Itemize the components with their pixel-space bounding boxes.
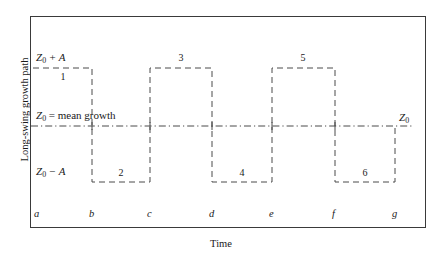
chart-plot-area xyxy=(0,0,442,261)
cycle-number-1: 1 xyxy=(56,72,70,82)
x-tick-label-c: c xyxy=(147,209,152,220)
x-tick-label-e: e xyxy=(269,209,274,220)
level-label-mean: Z0 = mean growth xyxy=(36,110,116,123)
level-label-upper: Z0 + A xyxy=(36,52,66,65)
cycle-number-3: 3 xyxy=(174,53,188,63)
long-swing-growth-path-curve xyxy=(33,68,395,182)
x-tick-label-g: g xyxy=(392,209,397,220)
x-tick-label-b: b xyxy=(89,209,94,220)
x-tick-label-d: d xyxy=(209,209,214,220)
cycle-number-2: 2 xyxy=(114,168,128,178)
cycle-number-5: 5 xyxy=(296,53,310,63)
level-label-upper-rest: + A xyxy=(46,51,65,63)
level-label-lower-rest: − A xyxy=(46,165,65,177)
x-tick-label-a: a xyxy=(34,209,39,220)
x-tick-label-f: f xyxy=(332,209,335,220)
figure-container: Long-swing growth path Z0 + A Z0 = mean … xyxy=(0,0,442,261)
level-label-right-z0: Z0 xyxy=(399,112,409,125)
cycle-number-6: 6 xyxy=(358,168,372,178)
mean-line-crossings xyxy=(92,122,335,130)
x-axis-title: Time xyxy=(0,239,442,250)
level-label-lower: Z0 − A xyxy=(36,166,66,179)
level-label-right-subscript: 0 xyxy=(405,116,409,125)
level-label-mean-rest: = mean growth xyxy=(46,109,115,121)
cycle-number-4: 4 xyxy=(235,168,249,178)
